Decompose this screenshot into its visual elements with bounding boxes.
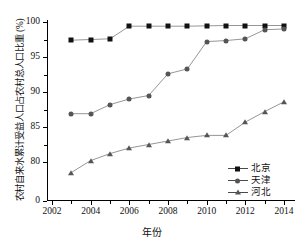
data-point-北京 [243,23,248,28]
data-point-天津 [88,111,93,116]
data-point-河北 [146,142,152,147]
data-point-北京 [185,24,190,29]
x-tick-label: 2006 [109,206,149,216]
series-line-北京 [71,26,284,41]
data-point-北京 [204,23,209,28]
data-point-河北 [204,133,210,138]
data-point-北京 [69,38,74,43]
legend-item-hebei[interactable]: 河北 [228,187,271,199]
legend-line-beijing [228,168,248,169]
x-tick-mark-minor [110,201,111,204]
data-point-河北 [68,170,74,175]
data-point-北京 [146,24,151,29]
data-point-天津 [127,97,132,102]
data-point-天津 [282,27,287,32]
x-tick-label: 2010 [187,206,227,216]
data-point-河北 [242,119,248,124]
data-point-天津 [69,111,74,116]
line-chart-figure: 农村自来水累计受益人口占农村总人口比重 (%) 100959085800 200… [0,0,303,243]
data-point-河北 [281,99,287,104]
data-point-天津 [166,71,171,76]
data-point-河北 [262,109,268,114]
x-tick-mark-minor [149,201,150,204]
legend-label-hebei: 河北 [251,187,271,199]
chart-legend: 北京 天津 河北 [228,163,271,198]
x-tick-mark [91,201,92,205]
x-tick-mark [52,201,53,205]
data-point-河北 [88,158,94,163]
x-tick-label: 2012 [225,206,265,216]
legend-item-beijing[interactable]: 北京 [228,163,271,175]
data-point-河北 [184,135,190,140]
data-point-天津 [243,36,248,41]
y-tick-mark-zero [43,201,47,202]
data-point-天津 [185,66,190,71]
y-tick-label: 100 [6,17,40,27]
x-tick-mark [284,201,285,205]
data-point-天津 [224,38,229,43]
x-tick-mark [168,201,169,205]
data-point-天津 [262,27,267,32]
x-tick-label: 2004 [71,206,111,216]
data-point-天津 [146,93,151,98]
series-line-河北 [71,102,284,173]
circle-marker-icon [235,178,240,183]
triangle-marker-icon [235,190,241,195]
data-point-河北 [223,133,229,138]
data-point-天津 [204,39,209,44]
y-tick-label-zero: 0 [6,196,40,206]
legend-label-beijing: 北京 [251,163,271,175]
legend-line-hebei [228,192,248,193]
x-tick-mark-minor [71,201,72,204]
y-tick-label: 80 [6,157,40,167]
x-tick-label: 2002 [32,206,72,216]
data-point-河北 [126,145,132,150]
x-tick-mark-minor [226,201,227,204]
y-axis-title: 农村自来水累计受益人口占农村总人口比重 (%) [12,15,26,205]
legend-label-tianjin: 天津 [251,175,271,187]
data-point-天津 [108,102,113,107]
x-tick-mark-minor [187,201,188,204]
x-tick-label: 2008 [148,206,188,216]
legend-item-tianjin[interactable]: 天津 [228,175,271,187]
x-tick-mark [245,201,246,205]
data-point-北京 [166,24,171,29]
data-point-北京 [88,37,93,42]
x-tick-mark [129,201,130,205]
data-point-河北 [165,138,171,143]
x-tick-label: 2014 [264,206,303,216]
x-tick-mark [207,201,208,205]
square-marker-icon [235,166,240,171]
y-tick-label: 85 [6,122,40,132]
data-point-河北 [107,151,113,156]
data-point-北京 [127,24,132,29]
y-tick-label: 95 [6,52,40,62]
y-tick-label: 90 [6,87,40,97]
x-tick-mark-minor [265,201,266,204]
data-point-北京 [224,23,229,28]
legend-line-tianjin [228,180,248,181]
x-axis-title: 年份 [0,224,303,239]
data-point-北京 [108,36,113,41]
series-line-天津 [71,29,284,114]
